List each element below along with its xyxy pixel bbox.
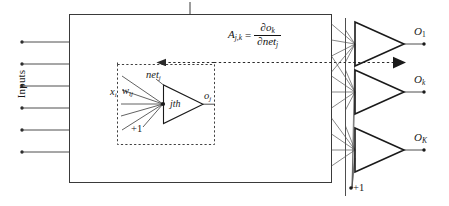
diagram-vector-layer	[0, 0, 449, 206]
sensitivity-equation: Aj,k = ∂ok ∂netj	[228, 22, 281, 49]
output-label-1: O1	[414, 25, 426, 39]
hidden-layer-rectangle	[70, 15, 332, 183]
input-signal-label: xi	[110, 86, 117, 99]
output-connections	[332, 24, 356, 188]
inner-bias-label: +1	[131, 123, 142, 134]
inputs-axis-label: Inputs	[15, 54, 27, 114]
output-label-k: Ok	[414, 73, 425, 87]
equation-numerator-subscript: k	[272, 26, 275, 35]
weight-label: wij	[122, 85, 133, 98]
output-bias-label: +1	[353, 182, 364, 193]
input-arrow-5	[20, 128, 69, 131]
output-label-K: OK	[414, 131, 427, 145]
output-neuron-2-triangle	[355, 70, 404, 114]
output-neuron-3-triangle	[355, 128, 404, 172]
net-label: netj	[146, 69, 161, 82]
equation-denominator: ∂net	[257, 35, 276, 47]
input-arrow-3	[20, 84, 69, 87]
input-arrow-1	[20, 40, 69, 43]
equation-denominator-subscript: j	[276, 40, 278, 49]
jth-neuron-label: jth	[170, 98, 181, 109]
equation-numerator: ∂o	[261, 21, 272, 33]
equation-equals: =	[245, 29, 251, 41]
jth-output-label: oj	[204, 90, 211, 103]
input-arrow-4	[20, 106, 69, 109]
equation-lhs: A	[228, 28, 235, 40]
input-arrow-6	[20, 150, 69, 153]
output-neuron-triangles	[355, 22, 404, 172]
input-arrow-2	[20, 62, 69, 65]
diagram-canvas: Inputs Aj,k = ∂ok ∂netj xi wij netj jth …	[0, 0, 449, 206]
input-arrows	[20, 40, 69, 153]
backprop-arrowhead-right	[393, 57, 406, 69]
equation-lhs-subscript: j,k	[235, 33, 242, 42]
